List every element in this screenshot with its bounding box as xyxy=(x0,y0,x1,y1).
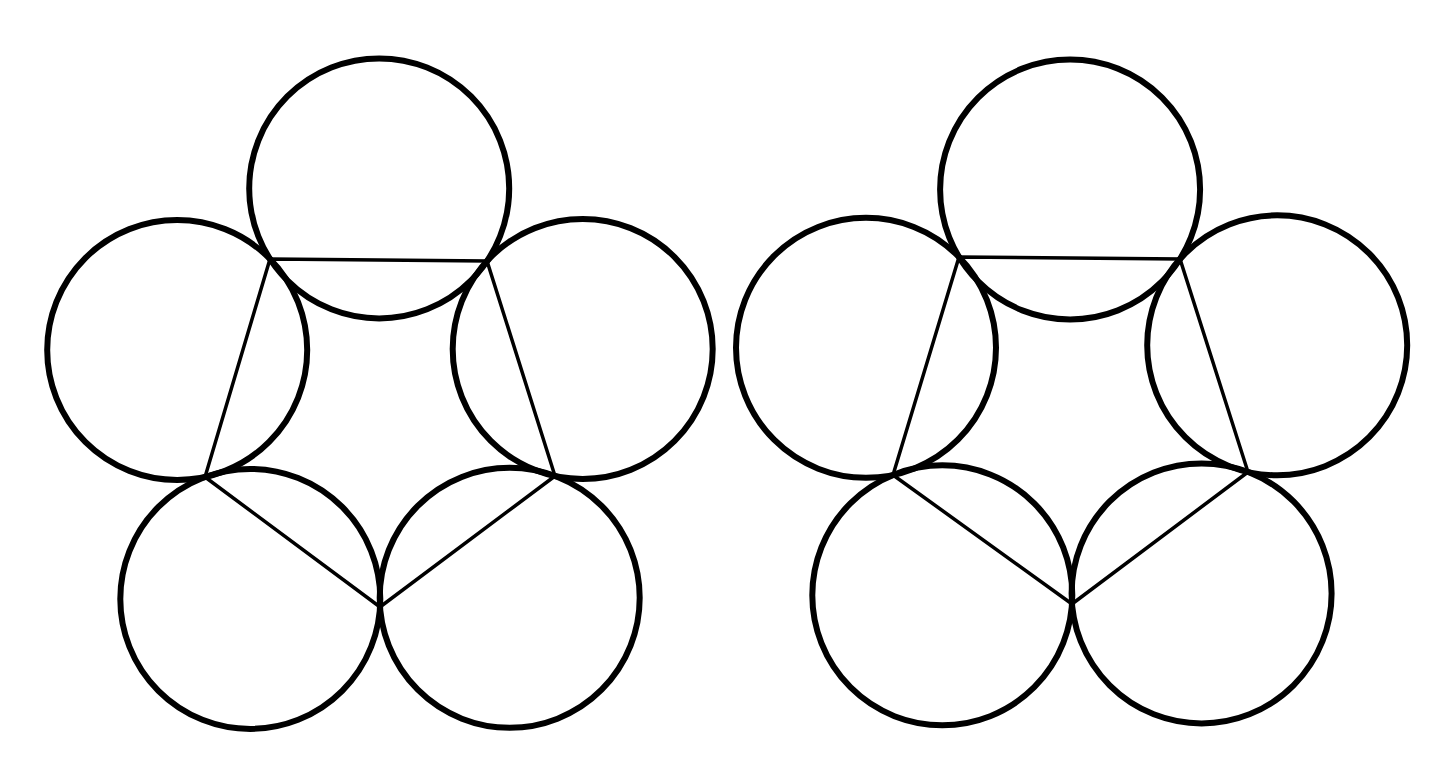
petal-circle xyxy=(1072,463,1332,723)
diagram-svg xyxy=(0,0,1449,773)
left-flower-figure xyxy=(47,58,713,729)
left-flower-circles xyxy=(47,58,713,729)
petal-circle xyxy=(736,218,996,478)
diagram-canvas xyxy=(0,0,1449,773)
left-flower-pentagon xyxy=(205,259,555,607)
right-flower-circles xyxy=(736,60,1407,726)
right-flower-figure xyxy=(736,60,1407,726)
petal-circle xyxy=(380,468,640,728)
petal-circle xyxy=(1147,215,1407,475)
right-flower-pentagon xyxy=(893,257,1248,604)
petal-circle xyxy=(120,469,380,729)
petal-circle xyxy=(812,465,1072,725)
petal-circle xyxy=(453,219,713,479)
